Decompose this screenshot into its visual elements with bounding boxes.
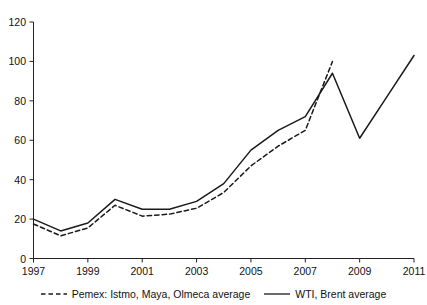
x-tick-label: 1997	[14, 266, 54, 277]
y-tick-label: 80	[0, 96, 26, 107]
chart-legend: Pemex: Istmo, Maya, Olmeca average WTI, …	[0, 283, 427, 305]
x-tick-label: 1999	[68, 266, 108, 277]
series-line-pemex	[34, 61, 333, 235]
y-tick-label: 100	[0, 56, 26, 67]
axes	[30, 22, 415, 263]
y-tick-label: 20	[0, 214, 26, 225]
x-tick-label: 2003	[177, 266, 217, 277]
x-tick-label: 2011	[394, 266, 427, 277]
legend-solid-line-swatch	[264, 290, 290, 298]
legend-label-pemex: Pemex: Istmo, Maya, Olmeca average	[72, 289, 251, 300]
legend-item-pemex: Pemex: Istmo, Maya, Olmeca average	[41, 289, 251, 300]
y-axis-ticks	[30, 22, 34, 259]
oil-price-line-chart: 020406080100120 199719992001200320052007…	[0, 0, 427, 305]
legend-label-wti-brent: WTI, Brent average	[295, 289, 386, 300]
plot-area	[0, 0, 427, 305]
x-tick-label: 2005	[231, 266, 271, 277]
y-tick-label: 0	[0, 254, 26, 265]
y-tick-label: 60	[0, 135, 26, 146]
legend-dashed-line-swatch	[41, 290, 67, 298]
x-tick-label: 2001	[122, 266, 162, 277]
y-tick-label: 120	[0, 17, 26, 28]
x-axis-ticks	[34, 259, 415, 263]
data-series-group	[34, 56, 415, 236]
legend-item-wti-brent: WTI, Brent average	[264, 289, 386, 300]
x-tick-label: 2009	[340, 266, 380, 277]
y-tick-label: 40	[0, 175, 26, 186]
series-line-wti-brent	[34, 56, 415, 231]
x-tick-label: 2007	[285, 266, 325, 277]
